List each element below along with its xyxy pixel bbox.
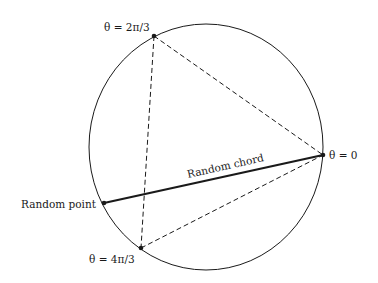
point-random: [102, 201, 107, 206]
label-theta-2pi3: θ = 2π/3: [104, 21, 150, 33]
triangle-edge-2pi3-to-4pi3: [141, 36, 154, 248]
point-theta-2pi3: [152, 34, 157, 39]
triangle-edge-2pi3-to-0: [154, 36, 323, 155]
circle: [89, 24, 323, 270]
point-theta-0: [321, 153, 326, 158]
label-theta-0: θ = 0: [329, 149, 357, 161]
label-random-point: Random point: [21, 198, 97, 210]
label-theta-4pi3: θ = 4π/3: [89, 253, 135, 265]
point-theta-4pi3: [139, 246, 144, 251]
random-chord-diagram: θ = 2π/3 θ = 0 Random point θ = 4π/3 Ran…: [0, 0, 378, 283]
